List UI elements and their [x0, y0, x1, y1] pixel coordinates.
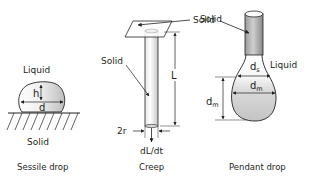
- diagram-canvas: Liquid h d Solid Sessile drop: [0, 0, 313, 183]
- pendant-liquid-label: Liquid: [270, 60, 297, 70]
- pendant-drop-caption: Pendant drop: [229, 162, 286, 172]
- pendant-drop-panel: Solid Liquid ds dm dm Pendant drop: [200, 11, 297, 172]
- creep-rod: [145, 31, 158, 126]
- creep-rate-label: dL/dt: [140, 146, 163, 156]
- pendant-rod: [245, 14, 263, 55]
- sessile-height-label: h: [33, 88, 39, 99]
- sessile-solid-label: Solid: [27, 137, 49, 147]
- creep-panel: Solid Solid L 2r dL/dt Creep: [101, 15, 215, 172]
- creep-length-label: L: [171, 70, 177, 81]
- pendant-rod-label: Solid: [200, 14, 222, 24]
- sessile-liquid-label: Liquid: [23, 65, 50, 75]
- sessile-drop-panel: Liquid h d Solid Sessile drop: [7, 65, 80, 172]
- creep-plate: [125, 21, 172, 37]
- creep-caption: Creep: [139, 162, 164, 172]
- creep-rod-label: Solid: [101, 56, 123, 66]
- sessile-ground-hatching: [7, 113, 78, 130]
- sessile-diameter-label: d: [39, 102, 45, 113]
- creep-radius-label: 2r: [117, 126, 127, 136]
- sessile-drop-caption: Sessile drop: [17, 162, 68, 172]
